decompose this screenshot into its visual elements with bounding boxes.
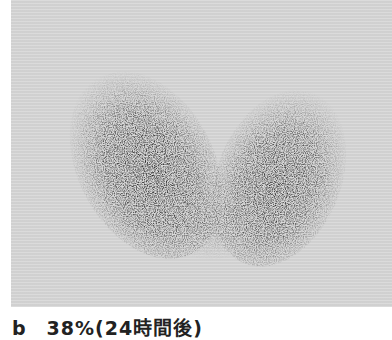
scintigram-image [11, 0, 392, 307]
figure-caption: b 38%(24時間後) [12, 313, 203, 340]
thyroid-uptake-graphic [11, 0, 392, 307]
